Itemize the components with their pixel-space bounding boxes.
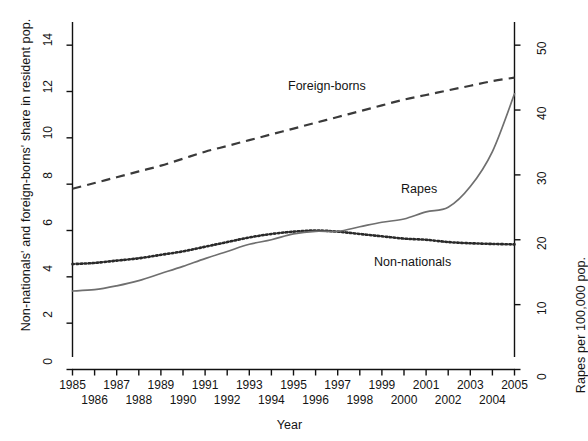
y-axis-left-tick-8: 8	[41, 172, 55, 194]
y-axis-left-tick-10: 10	[41, 126, 55, 148]
y-axis-right-tick-10: 10	[535, 293, 549, 315]
series-line-foreign-borns	[73, 78, 515, 189]
x-axis-tick-1986: 1986	[73, 393, 117, 407]
y-axis-left-tick-14: 14	[41, 33, 55, 55]
y-axis-left-tick-0: 0	[41, 358, 55, 380]
x-axis-tick-1994: 1994	[249, 393, 293, 407]
x-axis-tick-1991: 1991	[183, 378, 227, 392]
x-axis-tick-1996: 1996	[294, 393, 338, 407]
x-axis-tick-1999: 1999	[360, 378, 404, 392]
x-axis-tick-2005: 2005	[493, 378, 537, 392]
y-axis-left-tick-12: 12	[41, 80, 55, 102]
y-axis-right-tick-40: 40	[535, 98, 549, 120]
y-axis-left-tick-4: 4	[41, 265, 55, 287]
x-axis-tick-1992: 1992	[205, 393, 249, 407]
x-axis-tick-1985: 1985	[51, 378, 95, 392]
y-axis-left-tick-2: 2	[41, 311, 55, 333]
y-axis-left-title: Non-nationals' and foreign-borns' share …	[19, 10, 33, 340]
series-label-rapes: Rapes	[401, 182, 437, 196]
y-axis-left-tick-6: 6	[41, 219, 55, 241]
x-axis-tick-1989: 1989	[139, 378, 183, 392]
x-axis-tick-1990: 1990	[161, 393, 205, 407]
y-axis-right-title: Rapes per 100,000 pop.	[574, 160, 588, 441]
y-axis-right-tick-30: 30	[535, 163, 549, 185]
x-axis-tick-2000: 2000	[382, 393, 426, 407]
series-label-non-nationals: Non-nationals	[374, 255, 451, 269]
x-axis-title: Year	[0, 418, 579, 432]
y-axis-right-tick-50: 50	[535, 33, 549, 55]
series-label-foreign-borns: Foreign-borns	[288, 79, 366, 93]
x-axis-ticks	[73, 370, 515, 376]
y-axis-left-ticks	[67, 45, 73, 369]
x-axis-tick-1993: 1993	[227, 378, 271, 392]
x-axis-tick-2003: 2003	[448, 378, 492, 392]
x-axis-tick-2004: 2004	[470, 393, 514, 407]
x-axis-tick-2002: 2002	[426, 393, 470, 407]
y-axis-right-ticks	[515, 45, 521, 369]
x-axis-tick-1987: 1987	[95, 378, 139, 392]
y-axis-right-tick-20: 20	[535, 228, 549, 250]
x-axis-tick-1997: 1997	[316, 378, 360, 392]
x-axis-tick-1995: 1995	[272, 378, 316, 392]
axis-lines	[72, 22, 515, 370]
x-axis-tick-1988: 1988	[117, 393, 161, 407]
x-axis-tick-1998: 1998	[338, 393, 382, 407]
y-axis-right-tick-0: 0	[535, 358, 549, 380]
x-axis-tick-2001: 2001	[404, 378, 448, 392]
